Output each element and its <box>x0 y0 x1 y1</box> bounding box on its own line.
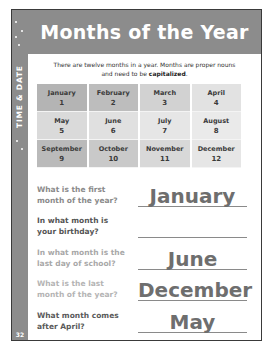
question-row: What is the last month of the year?Decem… <box>37 278 253 308</box>
month-name: April <box>208 88 225 98</box>
intro-line-1: There are twelve months in a year. Month… <box>54 61 236 68</box>
month-cell: January1 <box>37 84 87 112</box>
question-row: In what month is your birthday? <box>37 215 253 245</box>
month-number: 12 <box>211 154 221 164</box>
page-title: Months of the Year <box>28 10 261 54</box>
month-cell: October10 <box>89 140 139 168</box>
month-cell: July7 <box>140 112 190 140</box>
month-name: June <box>105 116 121 126</box>
month-name: January <box>48 88 76 98</box>
question-row: What month comes after April?May <box>37 310 253 340</box>
month-number: 3 <box>162 98 167 108</box>
month-number: 1 <box>59 98 64 108</box>
month-number: 4 <box>214 98 219 108</box>
answer-text[interactable]: May <box>138 310 247 334</box>
month-number: 11 <box>160 154 170 164</box>
star-dot-icon <box>16 140 18 142</box>
month-name: May <box>54 116 69 126</box>
month-name: February <box>97 88 130 98</box>
month-name: September <box>42 144 82 154</box>
month-name: August <box>203 116 229 126</box>
month-name: December <box>198 144 235 154</box>
answer-text[interactable]: January <box>138 184 247 208</box>
question-row: What is the first month of the year?Janu… <box>37 184 253 214</box>
question-row: In what month is the last day of school?… <box>37 247 253 277</box>
month-cell: September9 <box>37 140 87 168</box>
month-cell: December12 <box>192 140 242 168</box>
month-name: October <box>99 144 128 154</box>
month-number: 2 <box>111 98 116 108</box>
intro-line-2: and need to be <box>101 70 148 77</box>
month-name: November <box>146 144 184 154</box>
months-table: January1February2March3April4May5June6Ju… <box>37 84 241 168</box>
month-cell: November11 <box>140 140 190 168</box>
star-dot-icon <box>15 36 17 38</box>
month-name: March <box>153 88 176 98</box>
month-number: 6 <box>111 126 116 136</box>
content-panel: There are twelve months in a year. Month… <box>28 54 261 340</box>
page-number: 32 <box>14 331 26 338</box>
answer-text[interactable]: December <box>138 278 247 302</box>
section-label: TIME & DATE <box>15 114 24 128</box>
intro-end: . <box>186 70 188 77</box>
intro-text: There are twelve months in a year. Month… <box>28 60 261 78</box>
star-dot-icon <box>21 30 23 32</box>
star-dot-icon <box>15 21 17 23</box>
star-dot-icon <box>18 44 20 46</box>
month-number: 5 <box>59 126 64 136</box>
month-number: 7 <box>162 126 167 136</box>
month-cell: August8 <box>192 112 242 140</box>
month-name: July <box>158 116 172 126</box>
star-dot-icon <box>21 148 23 150</box>
question-text: In what month is the last day of school? <box>37 247 129 269</box>
month-number: 8 <box>214 126 219 136</box>
answer-line[interactable] <box>138 237 247 238</box>
month-cell: June6 <box>89 112 139 140</box>
month-cell: May5 <box>37 112 87 140</box>
month-number: 9 <box>59 154 64 164</box>
question-text: What is the last month of the year? <box>37 278 129 300</box>
month-cell: April4 <box>192 84 242 112</box>
question-text: What is the first month of the year? <box>37 184 129 206</box>
month-cell: March3 <box>140 84 190 112</box>
sidebar-strip: TIME & DATE 32 <box>12 10 28 340</box>
intro-emphasis: capitalized <box>149 70 186 77</box>
month-number: 10 <box>108 154 118 164</box>
worksheet-page: TIME & DATE 32 Months of the Year There … <box>11 9 262 341</box>
answer-text[interactable]: June <box>138 247 247 271</box>
question-text: What month comes after April? <box>37 310 129 332</box>
question-text: In what month is your birthday? <box>37 215 129 237</box>
month-cell: February2 <box>89 84 139 112</box>
